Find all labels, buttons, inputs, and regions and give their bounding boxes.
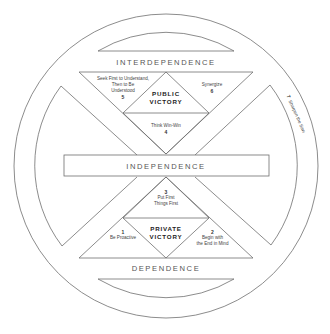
stage-independence: INDEPENDENCE: [0, 162, 330, 171]
habit-2-line2: the End in Mind: [185, 241, 240, 247]
stage-dependence: DEPENDENCE: [0, 264, 330, 273]
stage-interdependence: INTERDEPENDENCE: [0, 58, 330, 67]
habit-3: 3 Put First Things First: [136, 189, 196, 207]
habit-4-number: 4: [136, 129, 196, 135]
habit-2: 2 Begin with the End in Mind: [185, 229, 240, 247]
habit-5-number: 5: [83, 94, 163, 100]
habit-3-line2: Things First: [136, 201, 196, 207]
habit-6: Synergize 6: [190, 82, 234, 94]
habit-6-number: 6: [190, 88, 234, 94]
habit-4: Think Win-Win 4: [136, 123, 196, 135]
habit-1: 1 Be Proactive: [98, 229, 148, 241]
habit-1-line1: Be Proactive: [98, 235, 148, 241]
habit-5: Seek First to Understand, Then to Be Und…: [83, 76, 163, 100]
